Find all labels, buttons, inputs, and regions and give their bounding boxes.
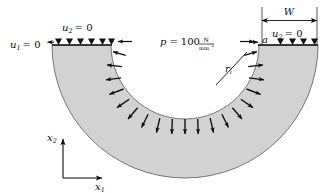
- label-pressure: p=100 N mm 2: [160, 36, 215, 51]
- label-axis-x2: x2: [47, 132, 57, 145]
- half-annulus-shape: [52, 45, 318, 178]
- support-triangle: [289, 39, 296, 46]
- svg-text:p=100: p=100: [160, 36, 200, 47]
- support-triangle: [66, 39, 73, 46]
- pressure-unit-exponent: 2: [212, 43, 215, 48]
- support-group-left: [55, 39, 115, 46]
- material-body: [52, 45, 318, 178]
- label-bc-left: u1= 0: [10, 39, 41, 52]
- support-triangle: [99, 39, 106, 46]
- pressure-unit-numerator: N: [203, 36, 208, 43]
- label-bc-top-right: u2= 0: [272, 28, 303, 41]
- pressure-arrow: [198, 119, 199, 134]
- support-triangle: [300, 39, 307, 46]
- label-bc-top-left: u2= 0: [62, 22, 93, 35]
- label-width: W: [284, 6, 295, 17]
- support-triangle: [55, 39, 62, 46]
- diagram-svg: u1= 0 u2= 0 u2= 0 p=100 N mm 2 ri W a x2…: [0, 0, 336, 193]
- pressure-arrow: [113, 52, 126, 56]
- support-triangle: [108, 39, 115, 46]
- coordinate-axes: [63, 139, 102, 178]
- support-group-right: [277, 39, 318, 46]
- support-triangle: [77, 39, 84, 46]
- pressure-unit-denominator: mm: [199, 45, 209, 51]
- pressure-arrow: [172, 119, 173, 134]
- label-crack-length: a: [262, 34, 268, 45]
- support-triangle: [88, 39, 95, 46]
- figure-canvas: u1= 0 u2= 0 u2= 0 p=100 N mm 2 ri W a x2…: [0, 0, 336, 193]
- label-axis-x1: x1: [95, 181, 105, 193]
